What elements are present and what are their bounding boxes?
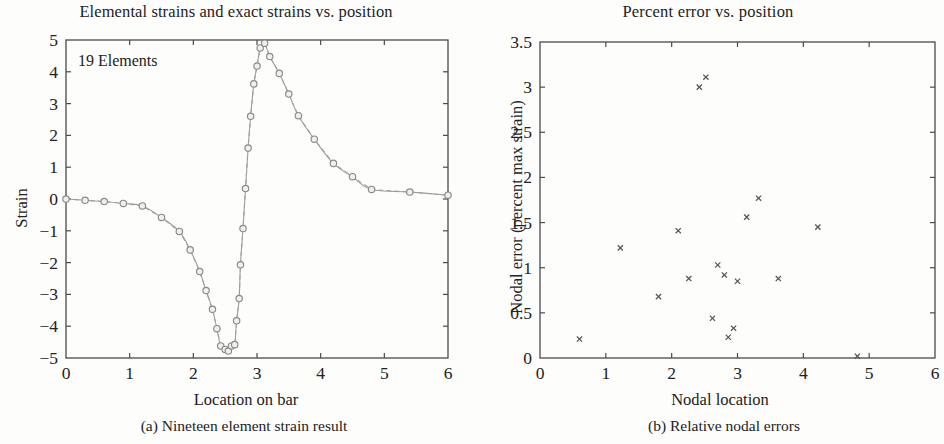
scatter-point-marker bbox=[756, 196, 761, 201]
a-xtick-label: 0 bbox=[62, 363, 71, 383]
data-point-marker bbox=[267, 53, 273, 59]
scatter-point-marker bbox=[676, 228, 681, 233]
a-xtick-label: 6 bbox=[444, 363, 453, 383]
a-xtick-label: 2 bbox=[189, 363, 198, 383]
data-point-marker bbox=[209, 306, 215, 312]
a-xtick-label: 3 bbox=[253, 363, 262, 383]
b-xtick-label: 3 bbox=[733, 363, 742, 383]
data-point-marker bbox=[251, 81, 257, 87]
data-point-marker bbox=[247, 113, 253, 119]
scatter-point-marker bbox=[656, 294, 661, 299]
elemental-strain-line bbox=[66, 43, 448, 351]
data-point-marker bbox=[349, 174, 355, 180]
data-point-marker bbox=[295, 112, 301, 118]
scatter-point-marker bbox=[731, 326, 736, 331]
data-point-marker bbox=[197, 268, 203, 274]
data-point-marker bbox=[407, 189, 413, 195]
data-point-marker bbox=[120, 200, 126, 206]
scatter-point-marker bbox=[703, 75, 708, 80]
scatter-point-marker bbox=[715, 262, 720, 267]
data-point-marker bbox=[261, 40, 267, 46]
a-xtick-label: 5 bbox=[380, 363, 389, 383]
a-ytick-label: −3 bbox=[39, 284, 58, 304]
b-xtick-label: 1 bbox=[601, 363, 610, 383]
scatter-point-marker bbox=[735, 279, 740, 284]
data-point-marker bbox=[368, 186, 374, 192]
b-xtick-label: 2 bbox=[667, 363, 676, 383]
a-ytick-label: 3 bbox=[49, 94, 58, 114]
b-xtick-label: 6 bbox=[931, 363, 940, 383]
b-ytick-label: 1 bbox=[523, 258, 532, 278]
scatter-point-marker bbox=[697, 85, 702, 90]
b-xtick-label: 5 bbox=[865, 363, 874, 383]
a-ytick-label: −4 bbox=[39, 316, 58, 336]
data-point-marker bbox=[232, 341, 238, 347]
data-point-marker bbox=[237, 262, 243, 268]
data-point-marker bbox=[101, 198, 107, 204]
scatter-point-marker bbox=[776, 276, 781, 281]
caption-b: (b) Relative nodal errors bbox=[488, 417, 944, 435]
b-ytick-label: 3 bbox=[523, 77, 532, 97]
scatter-point-marker bbox=[722, 272, 727, 277]
data-point-marker bbox=[445, 192, 451, 198]
scatter-point-marker bbox=[744, 215, 749, 220]
data-point-marker bbox=[276, 70, 282, 76]
panel-b: Percent error vs. position Nodal error (… bbox=[472, 0, 944, 444]
scatter-point-marker bbox=[726, 335, 731, 340]
plot-area-b: 012345600.511.522.533.5 bbox=[472, 0, 944, 400]
caption-a: (a) Nineteen element strain result bbox=[8, 417, 480, 435]
a-ytick-label: −2 bbox=[39, 253, 58, 273]
data-point-marker bbox=[139, 203, 145, 209]
data-point-marker bbox=[330, 160, 336, 166]
panel-a: Elemental strains and exact strains vs. … bbox=[0, 0, 472, 444]
scatter-point-marker bbox=[710, 316, 715, 321]
b-ytick-label: 3.5 bbox=[510, 32, 532, 52]
a-xtick-label: 1 bbox=[125, 363, 134, 383]
b-xtick-label: 0 bbox=[536, 363, 545, 383]
a-ytick-label: 5 bbox=[49, 30, 58, 50]
plot-area-a: 0123456−5−4−3−2−1012345 bbox=[0, 0, 472, 400]
b-frame bbox=[540, 42, 935, 358]
data-point-marker bbox=[214, 326, 220, 332]
data-point-marker bbox=[158, 214, 164, 220]
figure-container: Elemental strains and exact strains vs. … bbox=[0, 0, 944, 444]
data-point-marker bbox=[203, 287, 209, 293]
data-point-marker bbox=[236, 295, 242, 301]
data-point-marker bbox=[233, 318, 239, 324]
b-ytick-label: 2 bbox=[523, 167, 532, 187]
a-ytick-label: 2 bbox=[49, 125, 58, 145]
a-ytick-label: −5 bbox=[39, 348, 58, 368]
a-ytick-label: −1 bbox=[39, 221, 58, 241]
a-ytick-label: 1 bbox=[49, 157, 58, 177]
scatter-point-marker bbox=[686, 276, 691, 281]
b-ytick-label: 0.5 bbox=[510, 303, 532, 323]
scatter-point-marker bbox=[618, 245, 623, 250]
data-point-marker bbox=[176, 228, 182, 234]
data-point-marker bbox=[286, 91, 292, 97]
a-ytick-label: 0 bbox=[49, 189, 58, 209]
data-point-marker bbox=[240, 225, 246, 231]
a-xtick-label: 4 bbox=[316, 363, 325, 383]
scatter-point-marker bbox=[815, 224, 820, 229]
b-ytick-label: 2.5 bbox=[510, 122, 532, 142]
b-ytick-label: 0 bbox=[523, 348, 532, 368]
data-point-marker bbox=[82, 197, 88, 203]
data-point-marker bbox=[242, 185, 248, 191]
data-point-marker bbox=[63, 196, 69, 202]
b-ytick-label: 1.5 bbox=[510, 213, 532, 233]
data-point-marker bbox=[245, 145, 251, 151]
data-point-marker bbox=[311, 136, 317, 142]
b-xtick-label: 4 bbox=[799, 363, 808, 383]
data-point-marker bbox=[254, 63, 260, 69]
scatter-point-marker bbox=[577, 336, 582, 341]
a-ytick-label: 4 bbox=[49, 62, 58, 82]
data-point-marker bbox=[187, 247, 193, 253]
exact-strain-curve bbox=[66, 43, 448, 351]
a-frame bbox=[66, 40, 448, 358]
